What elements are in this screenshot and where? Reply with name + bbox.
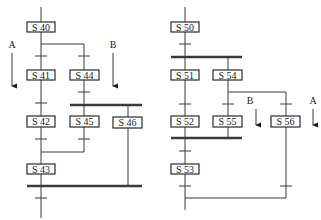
step-label: S 52 — [176, 116, 194, 127]
left-signal-b: B — [110, 39, 117, 86]
step-s43: S 43 — [27, 164, 55, 175]
step-label: S 42 — [32, 116, 50, 127]
sfc-diagram: S 40 S 41 S 44 S 42 S 45 S 46 S 43 A — [0, 0, 321, 220]
step-label: S 50 — [176, 22, 194, 33]
right-signal-b: B — [247, 95, 256, 125]
step-label: S 40 — [32, 22, 50, 33]
step-s41: S 41 — [27, 70, 55, 81]
right-branch-s56 — [185, 92, 286, 198]
step-s52: S 52 — [171, 116, 199, 127]
step-label: S 45 — [75, 116, 93, 127]
step-label: S 51 — [176, 70, 194, 81]
step-label: S 41 — [32, 70, 50, 81]
step-label: S 56 — [276, 116, 294, 127]
step-label: S 55 — [218, 116, 236, 127]
step-s44: S 44 — [70, 70, 99, 81]
step-s55: S 55 — [213, 116, 242, 127]
right-sfc: S 50 S 51 S 54 S 52 S 55 S 56 S 53 B — [171, 7, 317, 210]
step-s51: S 51 — [171, 70, 199, 81]
signal-label: A — [8, 39, 16, 50]
step-s50: S 50 — [171, 22, 199, 33]
step-s42: S 42 — [27, 116, 55, 127]
left-signal-a: A — [8, 39, 16, 86]
step-label: S 44 — [75, 70, 93, 81]
step-s56: S 56 — [271, 116, 300, 127]
step-label: S 46 — [118, 117, 136, 128]
right-signal-a: A — [309, 95, 317, 125]
left-sfc: S 40 S 41 S 44 S 42 S 45 S 46 S 43 A — [8, 7, 142, 218]
signal-label: A — [309, 95, 317, 106]
step-s45: S 45 — [70, 116, 99, 127]
step-label: S 53 — [176, 164, 194, 175]
step-s40: S 40 — [27, 22, 55, 33]
signal-label: B — [110, 39, 117, 50]
step-label: S 43 — [32, 164, 50, 175]
step-label: S 54 — [218, 70, 236, 81]
left-merge-s45 — [41, 105, 84, 152]
step-s53: S 53 — [171, 164, 199, 175]
step-s46: S 46 — [113, 117, 142, 128]
step-s54: S 54 — [213, 70, 242, 81]
signal-label: B — [247, 95, 254, 106]
